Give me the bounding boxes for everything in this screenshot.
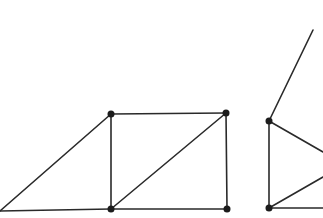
diagram-canvas <box>0 0 323 218</box>
edge-C-E <box>226 113 227 209</box>
node-D-dot-icon <box>108 206 115 213</box>
edge-D-C <box>111 113 226 209</box>
edge-G-J <box>269 177 323 208</box>
edge-A-B <box>0 114 111 211</box>
left-figure-edges <box>0 113 227 211</box>
edges-layer <box>0 30 323 211</box>
node-B-dot-icon <box>108 111 115 118</box>
nodes-layer <box>108 110 273 213</box>
graph-diagram <box>0 0 323 218</box>
node-C-dot-icon <box>223 110 230 117</box>
node-F-dot-icon <box>266 118 273 125</box>
edge-B-C <box>111 113 226 114</box>
edge-F-H <box>269 30 313 121</box>
node-G-dot-icon <box>266 205 273 212</box>
node-E-dot-icon <box>224 206 231 213</box>
edge-F-I <box>269 121 323 152</box>
edge-A-D <box>0 209 111 211</box>
right-figure-edges <box>269 30 323 208</box>
